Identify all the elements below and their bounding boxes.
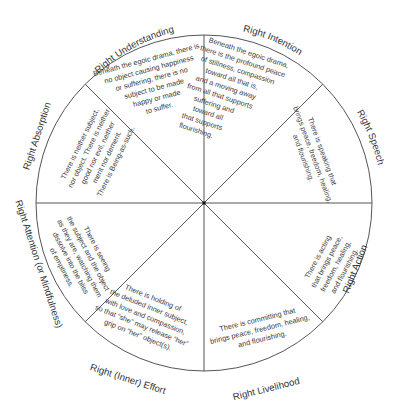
label-right-inner-effort: Right (Inner) Effort xyxy=(89,361,168,396)
label-right-livelihood: Right Livelihood xyxy=(232,375,301,402)
hub-dot xyxy=(203,202,206,205)
segment-text-right-absorption: There is neither subject, nor object. Th… xyxy=(57,102,139,202)
label-right-absorption: Right Absorption xyxy=(21,101,53,171)
segment-text-right-livelihood: There is committing that brings peace, f… xyxy=(207,303,313,356)
eightfold-path-wheel: Right Understanding Right Intention Righ… xyxy=(0,0,399,405)
segment-text-right-speech: There is speaking that brings peace, fre… xyxy=(282,102,344,208)
label-right-speech: Right Speech xyxy=(355,108,387,166)
